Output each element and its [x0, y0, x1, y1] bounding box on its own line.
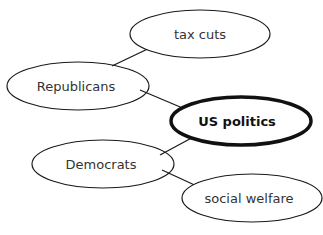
concept-map: tax cuts Republicans US politics Democra…: [0, 0, 323, 235]
node-label: Republicans: [37, 79, 116, 94]
node-label: Democrats: [66, 157, 137, 172]
node-democrats: Democrats: [32, 140, 174, 188]
node-label: tax cuts: [174, 27, 226, 42]
node-republicans: Republicans: [7, 62, 149, 110]
node-tax-cuts: tax cuts: [130, 10, 270, 58]
node-label: social welfare: [204, 191, 293, 206]
node-social-welfare: social welfare: [182, 174, 322, 222]
node-label: US politics: [198, 114, 276, 129]
node-us-politics: US politics: [171, 97, 311, 145]
